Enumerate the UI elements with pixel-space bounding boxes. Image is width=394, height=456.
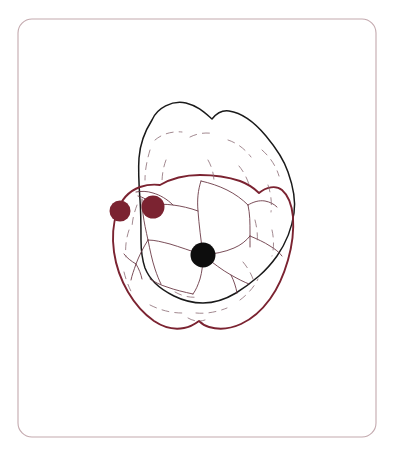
marker-dot-maroon-left[interactable] — [110, 201, 131, 222]
figure-canvas: Tooth occlusal surface annotation diagra… — [0, 0, 394, 456]
marker-dot-black-center[interactable] — [191, 243, 216, 268]
tooth-diagram-svg: Tooth occlusal surface annotation diagra… — [0, 0, 394, 456]
marker-dot-maroon-mid[interactable] — [142, 196, 165, 219]
